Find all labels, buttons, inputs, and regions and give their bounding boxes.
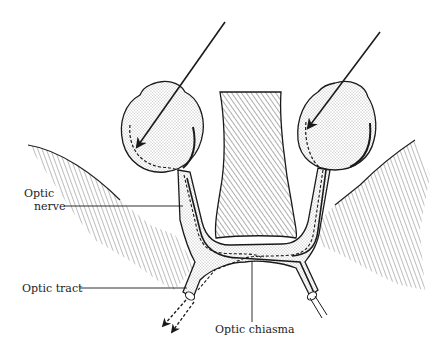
label-optic-nerve-line1: Optic: [24, 187, 54, 200]
label-optic-nerve-line2: nerve: [34, 200, 66, 213]
label-optic-chiasma: Optic chiasma: [215, 323, 295, 336]
visual-pathway-diagram: Optic nerve Optic tract Optic chiasma: [0, 0, 442, 356]
tract-exit-arrow-1: [163, 300, 186, 326]
tract-exit-arrow-2: [172, 302, 194, 332]
central-hatched-structure: [215, 92, 296, 238]
label-optic-tract: Optic tract: [22, 282, 83, 295]
